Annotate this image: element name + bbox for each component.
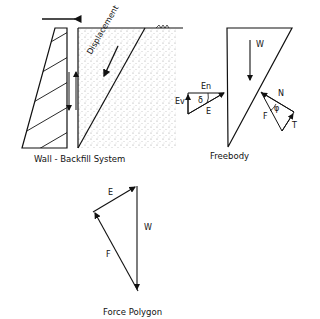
caption-freebody: Freebody (210, 152, 249, 161)
poly-E-label: E (108, 189, 113, 197)
phi-label: φ (274, 105, 279, 113)
F-label: F (263, 113, 268, 121)
caption-wall-backfill: Wall - Backfill System (34, 155, 125, 164)
E-label: E (206, 108, 211, 116)
T-label: T (292, 122, 297, 130)
W-label: W (256, 41, 264, 49)
N-label: N (278, 90, 284, 98)
poly-F-label: F (106, 251, 111, 259)
caption-force-polygon: Force Polygon (103, 308, 162, 317)
E-vector (93, 187, 135, 212)
En-label: En (201, 83, 211, 91)
F-vector (95, 213, 138, 291)
poly-W-label: W (144, 224, 152, 232)
wall-hatching (20, 0, 80, 160)
Ev-label: Ev (175, 98, 185, 106)
force-polygon (93, 186, 138, 291)
delta-label: δ (198, 97, 203, 105)
